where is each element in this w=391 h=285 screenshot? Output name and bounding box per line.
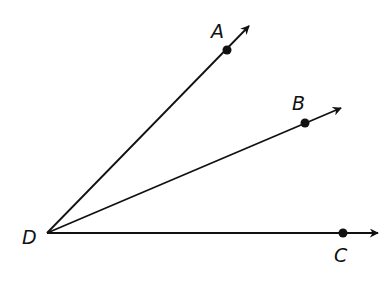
label-D: D (22, 226, 37, 248)
ray-DA (47, 26, 249, 233)
ray-DB (47, 108, 341, 233)
label-A: A (209, 20, 224, 42)
angle-diagram: A B C D (0, 0, 391, 285)
point-B (301, 119, 310, 128)
point-C (339, 229, 348, 238)
label-B: B (292, 92, 305, 114)
label-C: C (334, 244, 348, 266)
point-A (223, 46, 232, 55)
